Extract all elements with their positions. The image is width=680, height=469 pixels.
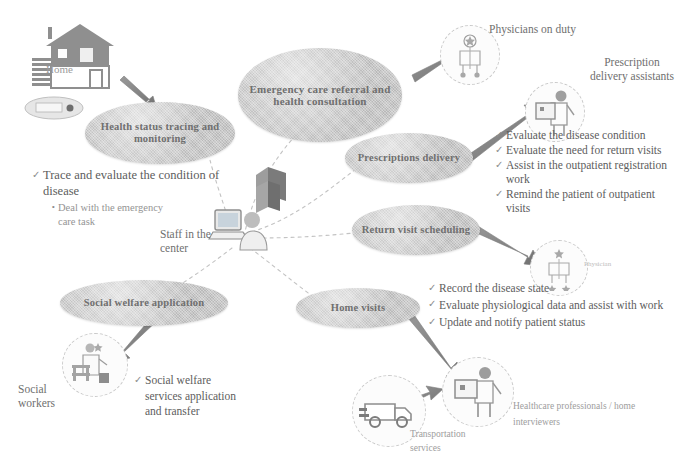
node-health-status-label: Health status tracing and monitoring (85, 121, 235, 145)
check-icon: ✓ (495, 143, 506, 156)
node-prescriptions-delivery-label: Prescriptions delivery (352, 152, 466, 164)
note-item: ✓ Trace and evaluate the condition of di… (32, 168, 237, 199)
check-icon: ✓ (428, 297, 439, 310)
check-icon: ✓ (32, 168, 43, 181)
check-icon: ✓ (428, 315, 439, 328)
physician-label: Physician (584, 260, 611, 269)
note-item: ✓ Remind the patient of outpatient visit… (495, 187, 680, 215)
note-prescription: ✓ Evaluate the disease condition ✓ Evalu… (495, 128, 680, 216)
link-center-returnvisit (256, 232, 366, 238)
node-social-welfare-application[interactable]: Social welfare application (60, 280, 228, 326)
note-health-status: ✓ Trace and evaluate the condition of di… (32, 168, 237, 230)
bullet-icon: • (42, 201, 58, 214)
note-text: Trace and evaluate the condition of dise… (43, 168, 237, 199)
note-text: Deal with the emergency care task (58, 201, 168, 229)
note-text: Update and notify patient status (439, 315, 668, 330)
social-workers-label: Social workers (18, 382, 78, 411)
home-label: Home (46, 63, 73, 77)
home-interviewers-label: Healthcare professionals / home intervie… (513, 398, 643, 430)
note-text: Social welfare services application and … (145, 373, 244, 420)
note-social-welfare: ✓ Social welfare services application an… (134, 373, 244, 421)
check-icon: ✓ (428, 281, 439, 294)
tablet-device-icon (24, 96, 84, 120)
note-item: ✓ Evaluate physiological data and assist… (428, 297, 668, 314)
check-icon: ✓ (495, 158, 506, 171)
transportation-label: Transportation services (410, 427, 492, 456)
note-item: ✓ Social welfare services application an… (134, 373, 244, 420)
note-text: Evaluate the need for return visits (506, 143, 680, 157)
node-health-status[interactable]: Health status tracing and monitoring (85, 102, 235, 164)
note-text: Record the disease state (439, 281, 668, 296)
node-return-visit-scheduling[interactable]: Return visit scheduling (352, 205, 480, 255)
node-home-visits-label: Home visits (325, 302, 391, 314)
note-item: ✓ Assist in the outpatient registration … (495, 158, 680, 186)
note-item: ✓ Evaluate the disease condition (495, 128, 680, 142)
note-item: ✓ Record the disease state (428, 281, 668, 296)
home-interviewer-icon (442, 357, 514, 427)
note-home-visit: ✓ Record the disease state ✓ Evaluate ph… (428, 281, 668, 331)
house-icon (18, 20, 126, 92)
prescription-assistants-label: Prescription delivery assistants (586, 55, 678, 84)
note-text: Evaluate physiological data and assist w… (439, 297, 668, 314)
check-icon: ✓ (495, 128, 506, 141)
node-social-welfare-label: Social welfare application (78, 297, 211, 309)
center-label: Staff in the center (160, 228, 230, 256)
node-return-visit-label: Return visit scheduling (356, 224, 476, 236)
node-emergency-care[interactable]: Emergency care referral and health consu… (238, 48, 402, 142)
note-item: ✓ Evaluate the need for return visits (495, 143, 680, 157)
check-icon: ✓ (134, 373, 145, 386)
note-text: Assist in the outpatient registration wo… (506, 158, 680, 186)
note-text: Evaluate the disease condition (506, 128, 680, 142)
node-prescriptions-delivery[interactable]: Prescriptions delivery (345, 133, 473, 183)
node-home-visits[interactable]: Home visits (296, 288, 420, 328)
physicians-on-duty-label: Physicians on duty (489, 22, 576, 36)
node-emergency-care-label: Emergency care referral and health consu… (238, 83, 402, 108)
diagram-canvas: Home Health status tracing and monitorin… (0, 0, 680, 469)
check-icon: ✓ (495, 187, 506, 200)
note-item: ✓ Update and notify patient status (428, 315, 668, 330)
note-item: • Deal with the emergency care task (42, 201, 237, 229)
note-text: Remind the patient of outpatient visits (506, 187, 680, 215)
